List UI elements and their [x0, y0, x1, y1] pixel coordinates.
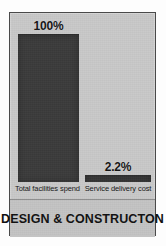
bar-value-label-0: 100%: [18, 19, 79, 33]
x-tick-label-total-facilities-spend: Total facilities spend: [15, 183, 79, 194]
chart-title: DESIGN & CONSTRUCTON: [1, 212, 164, 226]
bar-service-delivery-cost[interactable]: [85, 175, 151, 182]
plot-area: 100% 2.2%: [10, 13, 155, 182]
x-tick-label-service-delivery-cost: Service delivery cost: [83, 183, 153, 194]
bar-value-label-1: 2.2%: [85, 160, 151, 174]
chart-panel: 100% 2.2% Total facilities spend Service…: [9, 12, 156, 236]
chart-title-band: DESIGN & CONSTRUCTON: [10, 199, 155, 237]
chart-figure: 100% 2.2% Total facilities spend Service…: [0, 0, 166, 246]
bar-total-facilities-spend[interactable]: [18, 34, 79, 182]
bar-group-service-delivery-cost[interactable]: 2.2%: [85, 175, 151, 182]
x-axis-tick-labels: Total facilities spend Service delivery …: [10, 182, 155, 197]
bar-group-total-facilities-spend[interactable]: 100%: [18, 34, 79, 182]
